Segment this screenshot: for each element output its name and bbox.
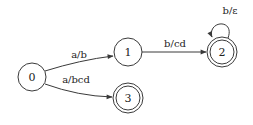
state-label: 0: [29, 71, 36, 84]
transition-0-to-1: a/b: [45, 49, 113, 71]
transition-label: a/bcd: [62, 74, 90, 85]
fst-diagram: a/b a/bcd b/cd b/ε 0 1 2 3: [0, 0, 253, 125]
self-loop-arrow: [211, 24, 229, 38]
transition-label: a/b: [71, 49, 87, 60]
state-label: 3: [125, 92, 132, 105]
state-3-accepting: 3: [113, 83, 143, 113]
edge-arrow: [45, 84, 112, 97]
state-2-accepting: 2: [207, 37, 237, 67]
state-0: 0: [18, 63, 46, 91]
transition-0-to-3: a/bcd: [45, 74, 112, 97]
state-label: 2: [219, 46, 226, 59]
state-label: 1: [125, 46, 132, 59]
state-1: 1: [114, 38, 142, 66]
transition-2-self-loop: b/ε: [211, 5, 237, 38]
transition-label: b/cd: [164, 38, 186, 49]
transition-1-to-2: b/cd: [142, 38, 206, 52]
transition-label: b/ε: [223, 5, 238, 16]
